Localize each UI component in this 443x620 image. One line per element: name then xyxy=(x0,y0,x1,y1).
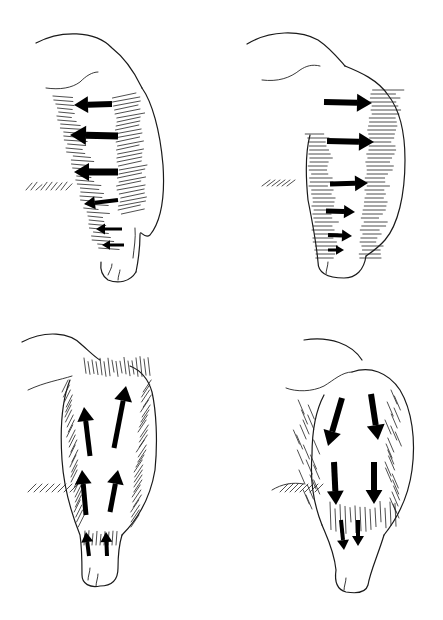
arrow-shaft xyxy=(88,104,112,105)
hatch-stroke xyxy=(300,425,306,439)
stroke-arrow-down xyxy=(327,462,344,505)
hatch-stroke xyxy=(394,396,400,410)
stroke-arrow-down xyxy=(366,462,383,504)
stroke-arrow-up xyxy=(107,470,124,512)
fur-hatching xyxy=(262,90,404,258)
hatch-stroke xyxy=(394,408,400,422)
arrow-shaft xyxy=(326,211,344,212)
hatch-stroke xyxy=(119,177,145,182)
hatch-stroke xyxy=(390,502,391,525)
stroke-arrow-right xyxy=(328,230,352,242)
hatch-stroke xyxy=(335,509,336,531)
arrow-shaft xyxy=(86,421,90,456)
arrow-head xyxy=(107,470,124,485)
hatch-stroke xyxy=(148,358,150,376)
hatch-stroke xyxy=(295,484,303,492)
hatch-stroke xyxy=(89,220,104,222)
hatch-stroke xyxy=(355,506,356,533)
hatch-stroke xyxy=(308,415,314,429)
stroke-arrow-right xyxy=(327,133,374,151)
hatch-stroke xyxy=(72,450,78,462)
arrow-shaft xyxy=(114,401,123,448)
hatch-stroke xyxy=(71,160,93,162)
stroke-arrow-left xyxy=(74,163,118,181)
hatch-stroke xyxy=(116,361,118,376)
hatch-stroke xyxy=(297,450,303,464)
hatch-stroke xyxy=(391,414,397,428)
hatch-stroke xyxy=(59,112,75,114)
hatch-stroke xyxy=(93,232,108,234)
hatch-stroke xyxy=(141,410,149,422)
hatch-stroke xyxy=(88,216,103,218)
hatch-stroke xyxy=(306,495,312,509)
hatch-stroke xyxy=(41,182,47,190)
arrow-head xyxy=(344,205,355,218)
stroke-arrow-left xyxy=(74,96,112,113)
limb-outline xyxy=(247,33,405,278)
hatch-stroke xyxy=(115,109,140,114)
hatch-stroke xyxy=(118,141,144,146)
hatch-stroke xyxy=(66,148,82,150)
arrow-head xyxy=(342,230,352,242)
hatch-stroke xyxy=(293,430,299,444)
hatch-stroke xyxy=(144,359,146,375)
arrow-head xyxy=(336,245,344,255)
hatch-stroke xyxy=(360,507,361,531)
stroke-arrow-left xyxy=(84,196,118,209)
arrow-head xyxy=(81,532,93,543)
hatch-stroke xyxy=(46,182,52,190)
panel-top-right xyxy=(247,33,405,278)
arrow-shaft xyxy=(324,102,357,103)
arrow-head xyxy=(84,196,96,209)
hatch-stroke xyxy=(92,240,114,242)
hatch-stroke xyxy=(112,360,114,372)
hatch-stroke xyxy=(112,531,113,545)
hatch-stroke xyxy=(92,360,94,374)
hatch-stroke xyxy=(330,502,331,530)
hatch-stroke xyxy=(350,508,351,522)
hatch-stroke xyxy=(385,508,386,528)
hatch-stroke xyxy=(57,108,72,110)
stroke-arrow-left xyxy=(70,126,118,145)
hatch-stroke xyxy=(76,180,94,182)
hatch-stroke xyxy=(112,93,135,98)
arrow-group xyxy=(324,94,374,255)
hatch-stroke xyxy=(128,361,130,376)
stroke-arrow-down xyxy=(352,520,364,546)
hatch-stroke xyxy=(36,185,42,190)
hatch-stroke xyxy=(108,358,110,376)
hatch-stroke xyxy=(84,358,86,373)
hatch-stroke xyxy=(301,410,307,424)
hatch-stroke xyxy=(303,420,309,434)
hatch-stroke xyxy=(303,445,309,459)
arrow-group xyxy=(75,386,132,556)
arrow-shaft xyxy=(87,542,89,556)
arrow-head xyxy=(327,491,344,505)
hatch-stroke xyxy=(119,161,142,166)
arrow-head xyxy=(352,536,364,546)
arrow-head xyxy=(337,539,349,550)
hatch-stroke xyxy=(290,484,298,492)
hatch-stroke xyxy=(84,208,98,210)
arrow-head xyxy=(77,407,94,422)
hatch-stroke xyxy=(80,188,98,190)
hatch-stroke xyxy=(96,531,97,545)
hatch-stroke xyxy=(80,196,102,198)
hatch-stroke xyxy=(113,97,140,102)
arrow-head xyxy=(367,424,385,440)
hatch-stroke xyxy=(96,362,98,375)
hatch-stroke xyxy=(56,104,74,106)
hatch-stroke xyxy=(120,361,122,373)
arrow-shaft xyxy=(106,542,107,556)
arrow-head xyxy=(75,470,92,485)
hatch-stroke xyxy=(385,420,391,434)
hatch-stroke xyxy=(117,157,142,162)
hatch-stroke xyxy=(57,116,72,118)
arrow-head xyxy=(357,94,372,112)
arrow-shaft xyxy=(334,462,335,491)
hatch-stroke xyxy=(88,362,90,375)
hatch-stroke xyxy=(133,495,141,507)
hatch-stroke xyxy=(314,465,320,479)
hatch-stroke xyxy=(116,531,117,545)
hatch-stroke xyxy=(131,500,139,512)
